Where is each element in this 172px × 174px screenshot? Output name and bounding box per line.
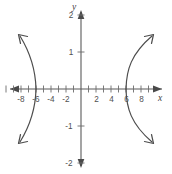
y-axis-label: y: [71, 2, 77, 12]
y-tick-label-neg1: -1: [65, 122, 73, 131]
x-tick-label-2: 2: [94, 95, 99, 104]
x-tick-label-4: 4: [109, 95, 114, 104]
graph-canvas: -8 -6 -4 -2 2 4 6 8 x 2: [0, 0, 172, 174]
coordinate-plane-figure: -8 -6 -4 -2 2 4 6 8 x 2: [0, 0, 172, 174]
x-axis-label: x: [157, 93, 163, 103]
x-tick-label-neg4: -4: [47, 95, 55, 104]
y-tick-label-neg2: -2: [65, 159, 73, 168]
x-axis: -8 -6 -4 -2 2 4 6 8 x: [6, 86, 163, 105]
x-axis-arrow-left: [10, 86, 19, 93]
y-axis-arrow-bottom: [78, 159, 85, 168]
y-tick-label-2: 2: [69, 11, 74, 20]
x-axis-arrow-right: [153, 86, 162, 93]
x-tick-label-8: 8: [139, 95, 144, 104]
right-branch-upper-curve: [126, 36, 152, 89]
y-axis-arrow-top: [78, 10, 85, 19]
x-tick-label-neg8: -8: [17, 95, 25, 104]
left-branch-upper-curve: [20, 36, 36, 89]
x-tick-label-neg6: -6: [32, 95, 40, 104]
y-axis: 2 1 -1 -2 y: [65, 2, 84, 168]
x-tick-label-neg2: -2: [62, 95, 70, 104]
y-tick-label-1: 1: [69, 48, 74, 57]
